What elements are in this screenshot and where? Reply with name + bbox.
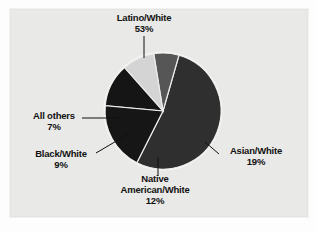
pie-label-black-white-name: Black/White — [35, 148, 87, 159]
pie-label-black-white-value: 9% — [20, 159, 102, 170]
pie-label-all-others: All others 7% — [18, 110, 90, 132]
pie-label-native-american-white-value: 12% — [107, 195, 203, 206]
pie-label-native-american-white: Native American/White 12% — [107, 173, 203, 206]
pie-label-all-others-name: All others — [33, 110, 75, 121]
pie-label-black-white: Black/White 9% — [20, 148, 102, 170]
pie-label-native-american-white-line1: Native — [141, 173, 168, 184]
pie-label-all-others-value: 7% — [18, 121, 90, 132]
pie-label-asian-white: Asian/White 19% — [214, 145, 298, 167]
pie-label-latino-white-name: Latino/White — [117, 12, 172, 23]
pie-label-asian-white-value: 19% — [214, 156, 298, 167]
pie-label-latino-white-value: 53% — [96, 23, 192, 34]
pie-label-latino-white: Latino/White 53% — [96, 12, 192, 34]
pie-label-native-american-white-line2: American/White — [107, 184, 203, 195]
pie-label-asian-white-name: Asian/White — [230, 145, 282, 156]
screenshot-root: Latino/White 53% All others 7% Black/Whi… — [0, 0, 316, 232]
